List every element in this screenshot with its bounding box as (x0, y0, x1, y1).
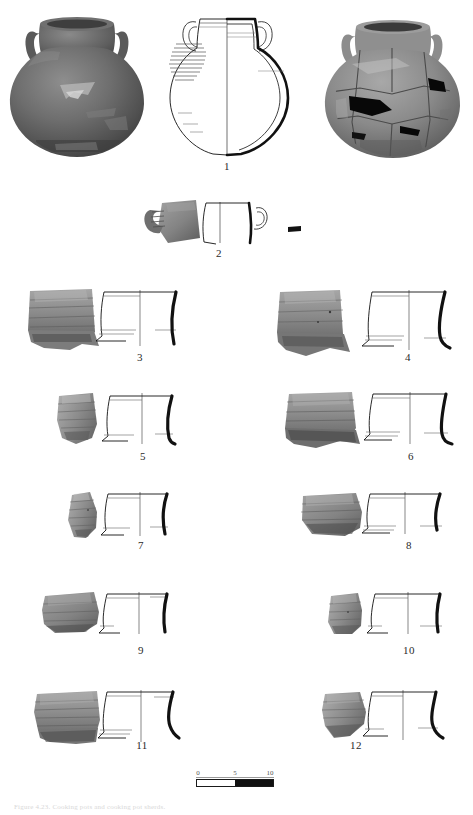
item-10-profile-drawing (367, 592, 442, 634)
item-6-profile-drawing (364, 392, 452, 444)
item-12-profile-drawing (363, 690, 443, 740)
item-5-photograph (57, 393, 97, 444)
scale-bar (196, 779, 274, 787)
item-3-profile-drawing (96, 290, 176, 346)
item-4-photograph (277, 290, 350, 356)
figure-label-12: 12 (341, 739, 371, 751)
scale-tick-5: 5 (227, 769, 243, 777)
figure-label-10: 10 (394, 644, 424, 656)
figure-label-7: 7 (126, 539, 156, 551)
figure-label-9: 9 (126, 644, 156, 656)
figure-label-5: 5 (128, 450, 158, 462)
scale-bar-segment-light (197, 780, 235, 786)
pottery-plate-figure: 1 2 3 4 5 6 7 8 9 10 11 12 0 5 10 Figure… (0, 0, 473, 815)
figure-label-11: 11 (127, 739, 157, 751)
item-7-photograph (68, 492, 97, 538)
item-10-photograph (328, 593, 362, 634)
item-1-profile-drawing (169, 19, 288, 155)
figure-label-1: 1 (212, 160, 242, 172)
item-9-profile-drawing (99, 592, 168, 634)
figure-label-8: 8 (394, 539, 424, 551)
item-12-photograph (322, 692, 366, 738)
item-2-photograph (144, 200, 200, 243)
item-6-photograph (285, 392, 360, 448)
item-7-profile-drawing (101, 492, 168, 536)
scale-rule (196, 777, 274, 778)
item-1-photograph-intact (10, 17, 144, 157)
item-3-photograph (28, 289, 99, 350)
item-9-photograph (42, 592, 99, 633)
item-8-photograph (301, 493, 362, 536)
item-8-profile-drawing (362, 492, 442, 534)
item-2-section-detail (288, 226, 301, 232)
plate-illustrations (0, 0, 473, 815)
figure-label-6: 6 (396, 450, 426, 462)
item-2-profile-drawing (203, 202, 267, 244)
scale-tick-10: 10 (262, 769, 278, 777)
scale-bar-segment-dark (235, 780, 273, 786)
figure-label-4: 4 (393, 351, 423, 363)
item-11-profile-drawing (98, 690, 179, 742)
item-5-profile-drawing (102, 393, 175, 444)
figure-label-2: 2 (204, 247, 234, 259)
item-4-profile-drawing (362, 290, 450, 350)
item-1-photograph-reconstructed (325, 20, 460, 158)
figure-label-3: 3 (125, 351, 155, 363)
item-11-photograph (34, 691, 100, 744)
figure-caption: Figure 4.23. Cooking pots and cooking po… (14, 803, 165, 811)
scale-tick-0: 0 (190, 769, 206, 777)
